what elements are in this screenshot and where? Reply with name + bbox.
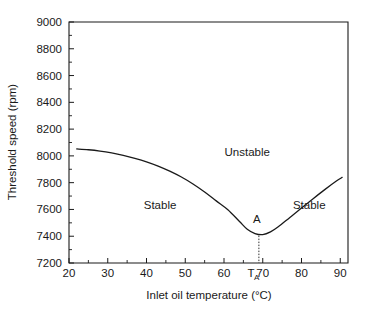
chart-canvas: 7200740076007800800082008400860088009000… [0,0,365,310]
y-tick-label: 8400 [36,96,62,108]
point-a-label: A [253,213,261,225]
y-tick-label: 7400 [36,230,62,242]
x-tick-label: 60 [218,267,231,279]
y-tick-label: 8600 [36,70,62,82]
y-tick-label: 8200 [36,123,62,135]
y-tick-label: 8800 [36,43,62,55]
x-tick-label: 50 [179,267,192,279]
y-tick-label: 7600 [36,203,62,215]
x-tick-label: 80 [295,267,308,279]
threshold-speed-chart-figure: 7200740076007800800082008400860088009000… [0,0,365,310]
y-axis-title: Threshold speed (rpm) [6,84,18,200]
stable-left-region-label: Stable [144,199,177,211]
ta-subscript: A [254,273,260,282]
y-tick-label: 7200 [36,257,62,269]
y-tick-label: 9000 [36,16,62,28]
x-tick-label: 20 [63,267,76,279]
y-tick-label: 8000 [36,150,62,162]
y-tick-label: 7800 [36,177,62,189]
x-axis-title: Inlet oil temperature (°C) [146,289,272,301]
x-tick-label: 40 [140,267,153,279]
unstable-region-label: Unstable [225,146,270,158]
x-tick-label: 90 [334,267,347,279]
stable-right-region-label: Stable [293,199,326,211]
x-tick-label: 30 [101,267,114,279]
